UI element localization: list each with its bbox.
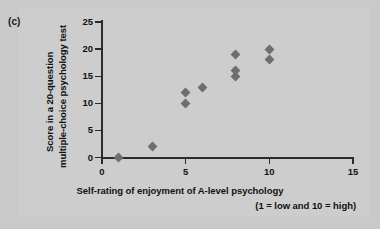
data-point <box>264 55 274 65</box>
y-tick-label-0: 0 <box>67 153 93 163</box>
x-tick-0 <box>101 158 102 164</box>
y-tick-15 <box>95 76 101 77</box>
x-axis-title-line-2: (1 = low and 10 = high) <box>0 200 356 211</box>
data-point <box>114 153 124 163</box>
y-tick-20 <box>95 48 101 49</box>
x-tick-label-5: 5 <box>171 167 201 177</box>
x-tick-label-15: 15 <box>338 167 368 177</box>
x-tick-10 <box>269 158 270 164</box>
y-tick-0 <box>95 157 101 158</box>
x-tick-5 <box>185 158 186 164</box>
data-point <box>181 88 191 98</box>
data-point <box>147 142 157 152</box>
figure-panel-c: (c) Score in a 20-question multiple-choi… <box>0 0 380 229</box>
y-tick-5 <box>95 130 101 131</box>
y-tick-10 <box>95 103 101 104</box>
data-point <box>197 82 207 92</box>
x-tick-15 <box>352 158 353 164</box>
y-tick-label-25: 25 <box>67 17 93 27</box>
y-tick-label-20: 20 <box>67 44 93 54</box>
x-axis-title-line-1: Self-rating of enjoyment of A-level psyc… <box>0 185 360 196</box>
data-point <box>181 98 191 108</box>
data-point <box>231 50 241 60</box>
y-tick-25 <box>95 21 101 22</box>
y-tick-label-10: 10 <box>67 98 93 108</box>
x-axis-line <box>101 157 354 159</box>
y-tick-label-5: 5 <box>67 125 93 135</box>
y-tick-label-15: 15 <box>67 71 93 81</box>
data-point <box>264 44 274 54</box>
x-tick-label-10: 10 <box>254 167 284 177</box>
y-axis-line <box>101 20 103 159</box>
x-tick-label-0: 0 <box>87 167 117 177</box>
